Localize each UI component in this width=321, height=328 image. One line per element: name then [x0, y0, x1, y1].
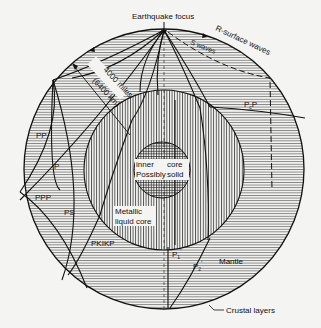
label-focus: Earthquake focus — [132, 12, 194, 21]
label-inner-core-2a: Possibly — [136, 170, 166, 179]
label-inner-core-2b: solid — [167, 170, 183, 179]
label-outer-core-2: liquid core — [115, 217, 152, 226]
label-p2: P2' — [193, 260, 202, 272]
label-inner-core-1a: inner — [136, 160, 154, 169]
label-inner-core-1b: core — [167, 160, 183, 169]
label-ppp: PPP — [35, 193, 51, 202]
label-p: P — [54, 162, 59, 171]
earth-seismic-diagram: Earthquake focus R-surface waves S waves… — [0, 0, 321, 328]
crust-leader-line — [209, 305, 224, 310]
label-pp: PP — [36, 131, 47, 140]
label-mantle: Mantle — [219, 257, 244, 266]
label-crust: Crustal layers — [226, 306, 275, 315]
label-outer-core-1: Metallic — [115, 207, 142, 216]
label-ps: PS — [64, 208, 75, 217]
label-pkikp: PKIKP — [91, 239, 115, 248]
label-p1: P1' — [172, 248, 181, 260]
